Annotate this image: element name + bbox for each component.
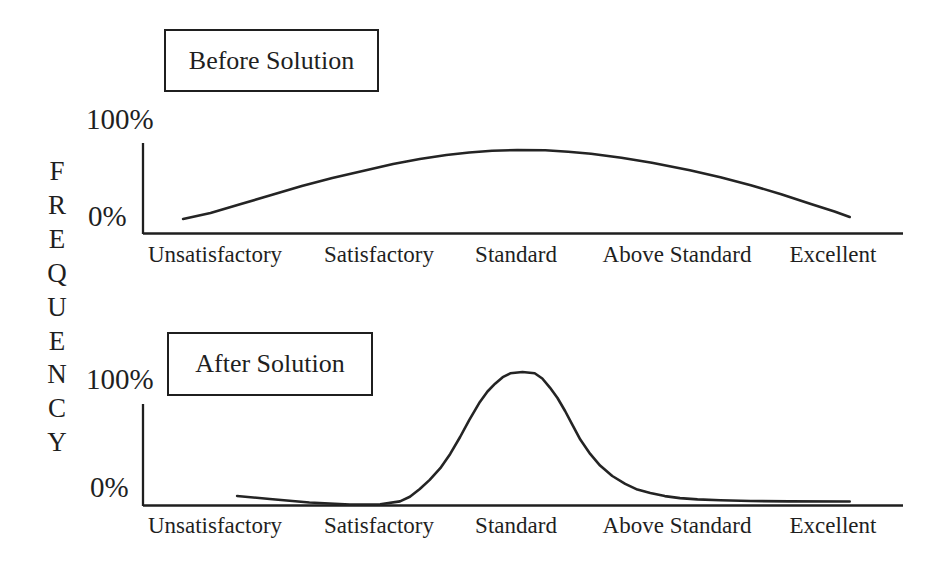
before-label-standard: Standard	[475, 242, 557, 268]
after-solution-title: After Solution	[195, 349, 345, 379]
after-y-tick-0: 0%	[90, 471, 129, 504]
before-label-above-standard: Above Standard	[603, 242, 752, 268]
before-solution-title: Before Solution	[189, 46, 354, 76]
after-label-excellent: Excellent	[790, 513, 877, 539]
after-label-above-standard: Above Standard	[603, 513, 752, 539]
after-label-unsatisfactory: Unsatisfactory	[148, 513, 282, 539]
after-label-satisfactory: Satisfactory	[324, 513, 434, 539]
before-label-satisfactory: Satisfactory	[324, 242, 434, 268]
before-label-excellent: Excellent	[790, 242, 877, 268]
after-label-standard: Standard	[475, 513, 557, 539]
before-distribution-curve	[183, 150, 850, 219]
before-y-tick-0: 0%	[88, 200, 127, 233]
before-y-tick-100: 100%	[86, 103, 154, 136]
plot-canvas	[0, 0, 948, 586]
before-x-axis-labels: Unsatisfactory Satisfactory Standard Abo…	[0, 242, 948, 276]
frequency-distribution-figure: FREQUENCY Before Solution 100% 0% Unsati…	[0, 0, 948, 586]
before-solution-title-box: Before Solution	[164, 29, 379, 92]
before-label-unsatisfactory: Unsatisfactory	[148, 242, 282, 268]
after-y-tick-100: 100%	[86, 363, 154, 396]
after-solution-title-box: After Solution	[167, 332, 373, 396]
after-x-axis-labels: Unsatisfactory Satisfactory Standard Abo…	[0, 513, 948, 547]
